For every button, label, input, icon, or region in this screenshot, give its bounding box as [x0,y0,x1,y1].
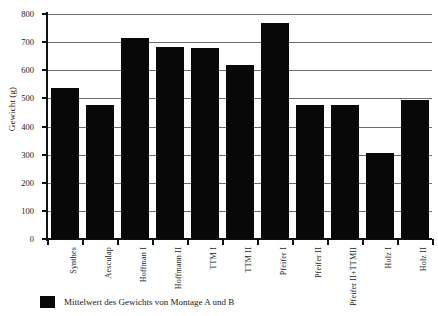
legend: Mittelwert des Gewichts von Montage A un… [40,296,234,308]
y-tick-label: 800 [21,9,34,19]
bar [86,105,114,239]
x-axis-label: Hoffman I [139,247,148,282]
x-axis-label: TTM I [209,247,218,270]
bar [296,105,324,239]
x-axis-label: Pfeifer I [279,247,288,275]
x-tick-mark [327,239,329,245]
y-tick-label: 700 [21,37,34,47]
y-tick-label: 400 [21,122,34,132]
x-axis-label: Aesculap [104,247,113,278]
x-tick-mark [187,239,189,245]
bar [366,153,394,239]
legend-swatch-icon [40,296,55,308]
bar [51,88,79,239]
bar-chart: Gewicht (g) 0100200300400500600700800 Sy… [0,0,438,316]
x-tick-mark [117,239,119,245]
bar [226,65,254,239]
x-axis-label: TTM II [244,247,253,272]
legend-label: Mittelwert des Gewichts von Montage A un… [64,297,234,307]
x-axis-label: Hoffmann II [174,247,183,289]
x-tick-mark [257,239,259,245]
plot-area: 0100200300400500600700800 [47,14,432,239]
y-tick-label: 200 [21,178,34,188]
x-tick-mark [47,239,49,245]
x-tick-mark [82,239,84,245]
x-axis-label: Synthes [69,247,78,274]
x-axis-label: Holz II [419,247,428,271]
x-axis-category-labels: SynthesAesculapHoffman IHoffmann IITTM I… [47,247,432,297]
x-tick-mark [362,239,364,245]
y-tick-label: 600 [21,65,34,75]
y-axis-title: Gewicht (g) [7,64,17,154]
bar [121,38,149,239]
y-tick-label: 0 [30,234,34,244]
x-tick-mark [397,239,399,245]
x-axis-label: Pfeifer II [314,247,323,278]
y-tick-label: 300 [21,150,34,160]
x-tick-mark [432,239,434,245]
x-tick-mark [222,239,224,245]
bar [331,105,359,239]
y-tick-label: 100 [21,206,34,216]
bar [191,48,219,239]
x-tick-mark [152,239,154,245]
x-axis-label: Pfeifer II+TTMII [349,247,358,306]
bar [261,23,289,239]
bar-series [47,14,432,239]
x-axis-label: Holz I [384,247,393,268]
bar [156,47,184,239]
bar [401,100,429,239]
x-tick-mark [292,239,294,245]
y-tick-label: 500 [21,93,34,103]
